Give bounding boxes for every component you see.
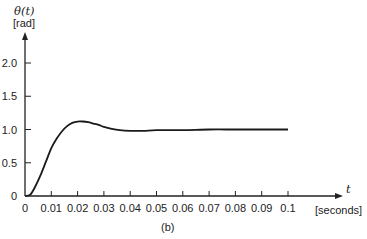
x-axis-arrow-icon <box>335 193 343 199</box>
y-tick-label: 0 <box>11 190 17 202</box>
figure-caption: (b) <box>161 221 174 233</box>
y-axis-label: θ(t) <box>14 4 35 18</box>
y-ticks: 00.51.01.52.0 <box>2 57 31 202</box>
y-axis-unit: [rad] <box>13 17 35 29</box>
y-tick-label: 0.5 <box>2 157 17 169</box>
x-axis-unit: [seconds] <box>315 204 362 216</box>
x-tick-label: 0.08 <box>225 202 246 214</box>
y-tick-label: 1.5 <box>2 90 17 102</box>
x-tick-label: 0.07 <box>198 202 219 214</box>
x-tick-label: 0.03 <box>93 202 114 214</box>
response-curve <box>25 121 288 196</box>
x-tick-label: 0.04 <box>119 202 140 214</box>
x-tick-label: 0.01 <box>41 202 62 214</box>
x-tick-label: 0.09 <box>251 202 272 214</box>
x-tick-label: 0.05 <box>146 202 167 214</box>
x-tick-label: 0.1 <box>280 202 295 214</box>
x-ticks: 00.010.020.030.040.050.060.070.080.090.1 <box>22 191 296 214</box>
step-response-chart: θ(t) [rad] t [seconds] 00.51.01.52.0 00.… <box>0 0 367 239</box>
y-tick-label: 1.0 <box>2 124 17 136</box>
x-tick-label: 0.02 <box>67 202 88 214</box>
y-tick-label: 2.0 <box>2 57 17 69</box>
x-tick-label: 0 <box>22 202 28 214</box>
x-tick-label: 0.06 <box>172 202 193 214</box>
y-axis-arrow-icon <box>22 32 28 40</box>
x-axis-label: t <box>346 182 351 196</box>
